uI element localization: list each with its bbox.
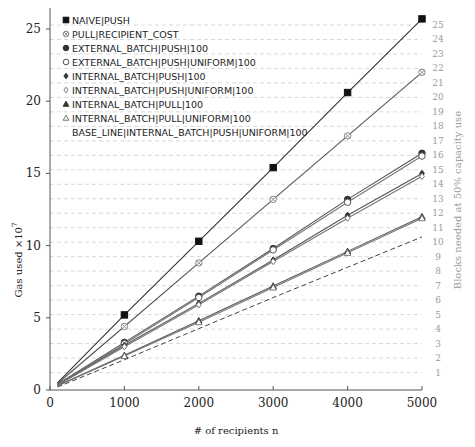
square-marker (344, 89, 350, 95)
circled-x-marker (270, 196, 276, 202)
legend-item: EXTERNAL_BATCH|PUSH|UNIFORM|100 (63, 57, 256, 68)
svg-text:Gas used ×107: Gas used ×107 (11, 223, 24, 298)
right-axis-tick-label: 20 (432, 92, 444, 102)
right-axis-tick-label: 25 (432, 20, 444, 30)
open-circle-marker (63, 59, 69, 65)
right-axis-tick-label: 6 (435, 295, 441, 305)
right-axis-tick-label: 12 (432, 208, 443, 218)
filled-circle-marker (63, 45, 69, 51)
right-axis-tick-label: 22 (432, 63, 443, 73)
right-axis-tick-label: 15 (432, 165, 444, 175)
square-marker (63, 17, 69, 23)
square-marker (196, 238, 202, 244)
y-axis-title-main: Gas used ×10 (13, 227, 24, 297)
legend-label: EXTERNAL_BATCH|PUSH|UNIFORM|100 (72, 57, 256, 68)
circled-x-marker (121, 323, 127, 329)
series-line (57, 153, 422, 384)
svg-text:Blocks needed at 50% capacity: Blocks needed at 50% capacity use (452, 111, 463, 289)
y-axis-title-exponent: 7 (11, 223, 19, 227)
right-axis-tick-label: 8 (435, 266, 441, 276)
series-line (57, 176, 422, 385)
y-tick-label: 15 (26, 166, 41, 180)
x-tick-label: 2000 (184, 396, 215, 410)
y-tick-label: 25 (26, 22, 41, 36)
right-axis-tick-label: 13 (432, 194, 444, 204)
right-axis-title: Blocks needed at 50% capacity use (452, 111, 463, 289)
right-axis-tick-label: 24 (432, 34, 444, 44)
legend-label: INTERNAL_BATCH|PUSH|UNIFORM|100 (72, 85, 253, 96)
series-internal-batch-push-100 (57, 170, 424, 385)
series-external-batch-push-100 (57, 150, 425, 384)
x-tick-label: 5000 (407, 396, 438, 410)
x-tick-label: 3000 (258, 396, 289, 410)
right-axis-tick-label: 17 (432, 136, 444, 146)
legend-label: EXTERNAL_BATCH|PUSH|100 (72, 43, 208, 54)
legend-label: INTERNAL_BATCH|PULL|100 (72, 99, 203, 110)
right-axis-tick-label: 11 (432, 223, 443, 233)
right-axis-tick-label: 9 (435, 252, 441, 262)
open-triangle-marker (63, 115, 69, 120)
line-chart: 010002000300040005000 0510152025 1234567… (0, 0, 475, 447)
x-axis-title: # of recipients n (194, 425, 279, 436)
legend-label: INTERNAL_BATCH|PUSH|100 (72, 71, 206, 82)
right-axis-tick-label: 1 (435, 368, 441, 378)
square-marker (121, 312, 127, 318)
filled-triangle-marker (63, 101, 69, 106)
y-axis-title: Gas used ×107 (11, 223, 24, 298)
legend-item: PULL|RECIPIENT_COST (63, 29, 179, 40)
legend-item: INTERNAL_BATCH|PUSH|100 (64, 71, 206, 82)
right-axis-tick-label: 19 (432, 107, 444, 117)
y-tick-label: 10 (26, 239, 41, 253)
right-axis-tick-label: 18 (432, 121, 444, 131)
right-axis-tick-label: 10 (432, 237, 444, 247)
right-axis-tick-label: 7 (435, 281, 441, 291)
right-axis-tick-label: 2 (435, 353, 441, 363)
x-tick-label: 1000 (109, 396, 140, 410)
open-circle-marker (419, 153, 425, 159)
legend-item: BASE_LINE|INTERNAL_BATCH|PUSH|UNIFORM|10… (72, 127, 308, 138)
legend-label: NAIVE|PUSH (72, 15, 130, 26)
circled-x-marker (344, 133, 350, 139)
circled-x-marker (196, 260, 202, 266)
open-circle-marker (270, 247, 276, 253)
legend-item: INTERNAL_BATCH|PULL|100 (63, 99, 203, 110)
legend-label: INTERNAL_BATCH|PULL|UNIFORM|100 (72, 113, 251, 124)
right-axis-tick-label: 23 (432, 49, 444, 59)
right-axis-ticks: 1234567891011121314151617181920212223242… (432, 20, 444, 378)
series-internal-batch-pull-100 (57, 214, 425, 386)
y-tick-label: 5 (33, 311, 41, 325)
right-axis-tick-label: 14 (432, 179, 444, 189)
right-axis-tick-label: 21 (432, 78, 443, 88)
right-axis-tick-label: 4 (435, 324, 441, 334)
series-line (57, 237, 422, 387)
legend-item: INTERNAL_BATCH|PUSH|UNIFORM|100 (64, 85, 254, 96)
y-axis-ticks: 0510152025 (26, 22, 50, 397)
right-axis-tick-label: 16 (432, 150, 444, 160)
legend-item: EXTERNAL_BATCH|PUSH|100 (63, 43, 208, 54)
legend-item: INTERNAL_BATCH|PULL|UNIFORM|100 (63, 113, 251, 124)
square-marker (270, 164, 276, 170)
x-tick-label: 4000 (332, 396, 363, 410)
y-tick-label: 20 (26, 94, 41, 108)
filled-diamond-marker (64, 73, 68, 79)
open-diamond-marker (64, 87, 68, 93)
legend: NAIVE|PUSHPULL|RECIPIENT_COSTEXTERNAL_BA… (63, 15, 307, 138)
square-marker (419, 16, 425, 22)
legend-item: NAIVE|PUSH (63, 15, 130, 26)
legend-label: BASE_LINE|INTERNAL_BATCH|PUSH|UNIFORM|10… (72, 127, 308, 138)
right-axis-tick-label: 3 (435, 339, 441, 349)
right-axis-tick-label: 5 (435, 310, 441, 320)
y-tick-label: 0 (33, 383, 41, 397)
open-circle-marker (344, 199, 350, 205)
circled-x-marker (63, 31, 69, 37)
circled-x-marker (419, 69, 425, 75)
x-tick-label: 0 (46, 396, 54, 410)
legend-label: PULL|RECIPIENT_COST (72, 29, 179, 40)
series-base-line-internal-batch-push-uniform-100 (57, 237, 422, 387)
